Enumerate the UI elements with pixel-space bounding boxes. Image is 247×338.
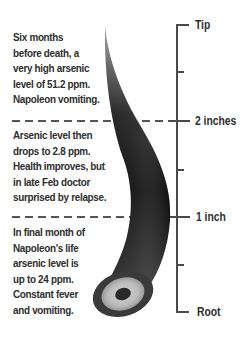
note-line: Napoleon vomiting. <box>13 92 99 108</box>
note-line: and vomiting. <box>13 303 99 319</box>
note-line: Six months <box>13 30 99 46</box>
note-line: up to 24 ppm. <box>13 272 99 288</box>
note-root-segment: In final month of Napoleon's life arseni… <box>13 225 99 319</box>
note-line: In final month of <box>13 225 99 241</box>
note-line: very high arsenic <box>13 61 99 77</box>
note-line: in late Feb doctor <box>13 175 99 191</box>
note-middle-segment: Arsenic level then drops to 2.8 ppm. Hea… <box>13 128 99 206</box>
note-line: Napoleon's life <box>13 241 99 257</box>
note-line: level of 51.2 ppm. <box>13 77 99 93</box>
note-line: before death, a <box>13 46 99 62</box>
note-line: Constant fever <box>13 287 99 303</box>
note-line: arsenic level is <box>13 256 99 272</box>
hair-arsenic-diagram: Tip 2 inches 1 inch Root Six months befo… <box>0 0 247 338</box>
note-line: drops to 2.8 ppm. <box>13 144 99 160</box>
length-scale <box>170 25 190 313</box>
note-tip-segment: Six months before death, a very high ars… <box>13 30 99 108</box>
scale-label-2-inches: 2 inches <box>195 114 236 128</box>
scale-label-1-inch: 1 inch <box>196 210 226 224</box>
scale-label-tip: Tip <box>195 18 210 32</box>
note-line: Arsenic level then <box>13 128 99 144</box>
note-line: Health improves, but <box>13 159 99 175</box>
note-line: surprised by relapse. <box>13 190 99 206</box>
scale-label-root: Root <box>197 305 221 319</box>
